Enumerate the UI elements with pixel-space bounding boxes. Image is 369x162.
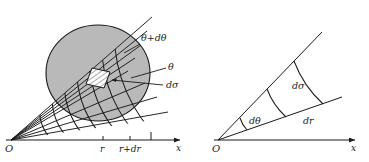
label-theta: θ	[168, 61, 174, 72]
tick-label-r: r	[100, 144, 105, 154]
left-panel-group: θ+dθ θ dσ O r r+dr x	[5, 17, 181, 154]
polar-area-element-figure: θ+dθ θ dσ O r r+dr x dθ dσ dr	[0, 0, 369, 162]
axis-label-x-left: x	[176, 143, 181, 153]
label-dsigma-right: dσ	[292, 80, 305, 91]
figure-canvas: θ+dθ θ dσ O r r+dr x dθ dσ dr	[0, 0, 369, 162]
right-panel-group: dθ dσ dr O x	[212, 32, 356, 154]
label-origin-right: O	[212, 143, 220, 154]
label-origin-left: O	[5, 143, 13, 154]
wedge-ray-lower	[218, 97, 342, 140]
tick-label-r-plus-dr: r+dr	[119, 144, 142, 154]
label-theta-plus-dtheta: θ+dθ	[141, 32, 167, 43]
axis-label-x-right: x	[351, 143, 356, 153]
label-dr: dr	[303, 115, 315, 126]
label-dtheta: dθ	[249, 115, 261, 126]
label-dsigma: dσ	[166, 79, 179, 90]
